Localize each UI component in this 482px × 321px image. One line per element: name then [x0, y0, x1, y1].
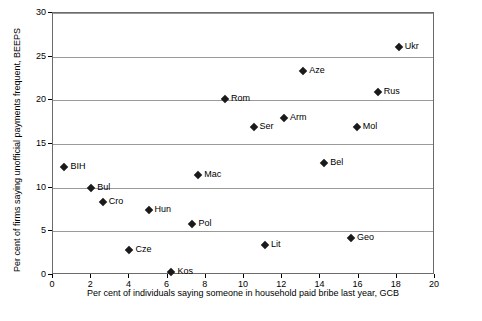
point-marker: [194, 170, 202, 178]
plot-area: BIHBulCroCzeHunKosPolMacRomSerLitArmAzeB…: [52, 12, 434, 274]
point-label: Geo: [357, 233, 374, 242]
point-marker: [280, 114, 288, 122]
y-tick-label: 30: [16, 8, 46, 17]
x-axis-label: Per cent of individuals saying someone i…: [52, 288, 434, 298]
x-tick-mark: [396, 274, 397, 278]
point-marker: [394, 43, 402, 51]
x-tick-mark: [243, 274, 244, 278]
point-label: Lit: [271, 240, 281, 249]
x-tick-mark: [281, 274, 282, 278]
gridline: [53, 13, 433, 14]
point-label: Aze: [309, 66, 325, 75]
gridline: [53, 231, 433, 232]
point-label: Hun: [155, 205, 172, 214]
point-marker: [125, 245, 133, 253]
x-tick-mark: [434, 274, 435, 278]
y-tick-label: 0: [16, 270, 46, 279]
x-tick-mark: [319, 274, 320, 278]
scatter-chart: Per cent of firms saying unofficial paym…: [0, 0, 482, 321]
x-tick-mark: [167, 274, 168, 278]
point-marker: [261, 241, 269, 249]
gridline: [53, 57, 433, 58]
point-label: Cze: [135, 245, 151, 254]
point-label: Cro: [109, 197, 124, 206]
x-tick-mark: [90, 274, 91, 278]
point-label: Ser: [260, 122, 274, 131]
y-tick-label: 20: [16, 95, 46, 104]
point-label: Bul: [97, 183, 110, 192]
point-label: Rus: [384, 87, 400, 96]
y-tick-mark: [48, 187, 52, 188]
point-marker: [144, 206, 152, 214]
y-tick-mark: [48, 143, 52, 144]
point-marker: [98, 197, 106, 205]
point-marker: [60, 162, 68, 170]
x-tick-mark: [205, 274, 206, 278]
point-marker: [188, 220, 196, 228]
point-marker: [87, 183, 95, 191]
point-marker: [221, 95, 229, 103]
y-tick-label: 15: [16, 139, 46, 148]
point-label: Arm: [290, 113, 307, 122]
y-tick-label: 5: [16, 226, 46, 235]
x-tick-mark: [52, 274, 53, 278]
point-marker: [352, 122, 360, 130]
point-label: Bel: [330, 158, 343, 167]
point-label: Mac: [204, 170, 221, 179]
y-tick-label: 10: [16, 183, 46, 192]
x-tick-mark: [358, 274, 359, 278]
point-label: Mol: [363, 122, 378, 131]
y-axis-label: Per cent of firms saying unofficial paym…: [12, 28, 22, 272]
point-marker: [320, 159, 328, 167]
y-tick-mark: [48, 56, 52, 57]
point-marker: [373, 87, 381, 95]
y-tick-mark: [48, 12, 52, 13]
x-tick-mark: [128, 274, 129, 278]
point-label: Rom: [231, 94, 250, 103]
y-tick-label: 25: [16, 52, 46, 61]
point-label: Ukr: [405, 42, 419, 51]
gridline: [53, 144, 433, 145]
point-marker: [249, 122, 257, 130]
y-tick-mark: [48, 230, 52, 231]
point-label: BIH: [70, 162, 85, 171]
point-label: Pol: [198, 219, 211, 228]
point-marker: [167, 267, 175, 275]
point-marker: [299, 66, 307, 74]
y-tick-mark: [48, 99, 52, 100]
point-label: Kos: [177, 267, 193, 276]
point-marker: [347, 234, 355, 242]
